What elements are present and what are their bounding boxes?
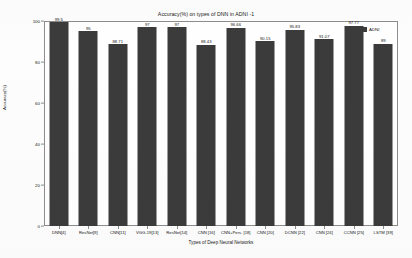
x-tick-mark xyxy=(147,226,148,229)
bar[interactable] xyxy=(344,26,363,226)
x-tick-mark xyxy=(324,226,325,229)
bar-group[interactable]: 97.77 xyxy=(339,21,369,226)
bar-value-label: 90.15 xyxy=(260,36,270,41)
bar[interactable] xyxy=(315,39,334,226)
bar-group[interactable]: 88.71 xyxy=(103,21,133,226)
bar-group[interactable]: 88.43 xyxy=(192,21,222,226)
bar[interactable] xyxy=(226,28,245,226)
x-axis-title: Types of Deep Neural Networks xyxy=(44,240,398,245)
legend-swatch-adni xyxy=(356,27,367,32)
bar[interactable] xyxy=(138,27,157,226)
bar-series-adni: 99.59588.71979788.4396.6690.1595.8391.07… xyxy=(44,21,398,226)
x-tick-mark xyxy=(88,226,89,229)
x-tick-mark xyxy=(177,226,178,229)
y-tick-label: 80 xyxy=(22,60,40,65)
x-tick-label: ResNet[9] xyxy=(79,230,98,235)
x-tick-mark xyxy=(354,226,355,229)
bar-group[interactable]: 96.66 xyxy=(221,21,251,226)
x-tick-label: CNN [16] xyxy=(198,230,215,235)
bar-group[interactable]: 90.15 xyxy=(251,21,281,226)
x-tick-mark xyxy=(236,226,237,229)
bar[interactable] xyxy=(108,44,127,226)
x-tick-mark xyxy=(206,226,207,229)
y-tick-label: 100 xyxy=(22,19,40,24)
x-tick-mark xyxy=(383,226,384,229)
bar[interactable] xyxy=(79,31,98,226)
x-tick-label: CNN+Pers. [18] xyxy=(221,230,250,235)
y-tick-label: 60 xyxy=(22,101,40,106)
x-tick-label: CCNN [25] xyxy=(344,230,364,235)
bar-group[interactable]: 89 xyxy=(369,21,399,226)
legend-label-adni: ADNI xyxy=(369,27,380,32)
bar[interactable] xyxy=(285,30,304,226)
bar-value-label: 97 xyxy=(145,22,150,27)
y-tick-label: 0 xyxy=(22,224,40,229)
bar[interactable] xyxy=(197,45,216,226)
x-tick-label: CNN [20] xyxy=(257,230,274,235)
x-tick-label: LSTM [39] xyxy=(374,230,393,235)
bar-group[interactable]: 99.5 xyxy=(44,21,74,226)
bar[interactable] xyxy=(374,44,393,226)
x-tick-label: DCNN [22] xyxy=(285,230,305,235)
bar[interactable] xyxy=(167,27,186,226)
y-axis-title: Accuracy(%) xyxy=(2,58,7,138)
bar-value-label: 88.71 xyxy=(113,39,123,44)
x-tick-mark xyxy=(295,226,296,229)
bar-value-label: 97.77 xyxy=(349,20,359,25)
x-tick-mark xyxy=(265,226,266,229)
x-tick-label: DNN[4] xyxy=(52,230,66,235)
bar-value-label: 91.07 xyxy=(319,34,329,39)
y-tick-label: 20 xyxy=(22,183,40,188)
bar-value-label: 95.83 xyxy=(290,24,300,29)
x-tick-mark xyxy=(118,226,119,229)
bar-value-label: 97 xyxy=(174,22,179,27)
bar[interactable] xyxy=(49,22,68,226)
bar-group[interactable]: 91.07 xyxy=(310,21,340,226)
y-tick-label: 40 xyxy=(22,142,40,147)
figure-canvas: Accuracy(%) on types of DNN in ADNI -1 A… xyxy=(0,0,412,258)
bar[interactable] xyxy=(256,41,275,226)
x-tick-label: VGG-19[13] xyxy=(136,230,158,235)
bar-value-label: 88.43 xyxy=(201,39,211,44)
bar-value-label: 89 xyxy=(381,38,386,43)
bar-group[interactable]: 95 xyxy=(74,21,104,226)
bar-value-label: 95 xyxy=(86,26,91,31)
bar-group[interactable]: 95.83 xyxy=(280,21,310,226)
bar-value-label: 99.5 xyxy=(55,17,63,22)
bar-group[interactable]: 97 xyxy=(133,21,163,226)
legend: ADNI xyxy=(356,27,380,32)
x-tick-label: CNN [24] xyxy=(316,230,333,235)
x-tick-mark xyxy=(59,226,60,229)
x-tick-label: ResNet[14] xyxy=(166,230,187,235)
x-tick-label: CNN[11] xyxy=(110,230,126,235)
bar-group[interactable]: 97 xyxy=(162,21,192,226)
bar-value-label: 96.66 xyxy=(231,22,241,27)
